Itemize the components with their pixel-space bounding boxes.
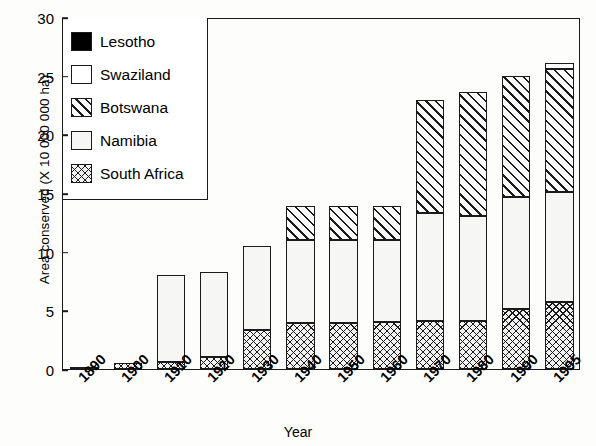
y-axis-tick-mark (62, 252, 68, 254)
bar-1995[interactable] (545, 63, 573, 369)
y-axis-tick-label: 0 (46, 362, 54, 379)
y-axis-tick-labels: 051015202530 (0, 0, 62, 446)
legend-label: Lesotho (100, 34, 155, 50)
legend-swatch-botswana (71, 98, 92, 117)
bar-segment-namibia[interactable] (286, 240, 314, 323)
bar-segment-botswana[interactable] (416, 100, 444, 213)
bar-segment-namibia[interactable] (243, 246, 271, 330)
y-axis-tick-label: 15 (37, 186, 54, 203)
x-axis-title: Year (0, 424, 596, 440)
bar-segment-botswana[interactable] (329, 206, 357, 240)
y-axis-tick-mark (62, 311, 68, 313)
bar-segment-namibia[interactable] (502, 197, 530, 310)
y-axis-tick-label: 20 (37, 127, 54, 144)
chart-figure: Area conserved (X 10 000 000 ha) 0510152… (0, 0, 596, 446)
bar-1940[interactable] (286, 206, 314, 369)
bar-segment-namibia[interactable] (329, 240, 357, 323)
y-axis-tick-mark (62, 135, 68, 137)
bar-segment-namibia[interactable] (373, 240, 401, 322)
legend-swatch-lesotho (71, 32, 92, 51)
bar-1950[interactable] (329, 206, 357, 369)
bar-segment-namibia[interactable] (545, 192, 573, 302)
legend-swatch-swaziland (71, 65, 92, 84)
chart-legend: LesothoSwazilandBotswanaNamibiaSouth Afr… (63, 18, 208, 200)
bar-segment-botswana[interactable] (286, 206, 314, 240)
y-axis-tick-mark (62, 369, 68, 371)
y-axis-tick-label: 30 (37, 10, 54, 27)
bar-segment-botswana[interactable] (545, 69, 573, 192)
legend-label: South Africa (100, 166, 184, 182)
bar-segment-botswana[interactable] (459, 92, 487, 216)
bar-segment-namibia[interactable] (200, 272, 228, 358)
y-axis-tick-mark (62, 193, 68, 195)
y-axis-tick-mark (62, 76, 68, 78)
legend-label: Botswana (100, 100, 168, 116)
bar-segment-namibia[interactable] (416, 213, 444, 321)
legend-swatch-southafrica (71, 164, 92, 183)
bar-1970[interactable] (416, 100, 444, 369)
bar-1930[interactable] (243, 246, 271, 369)
bar-1980[interactable] (459, 92, 487, 369)
legend-item-namibia[interactable]: Namibia (71, 124, 207, 157)
legend-label: Swaziland (100, 67, 171, 83)
legend-item-botswana[interactable]: Botswana (71, 91, 207, 124)
legend-label: Namibia (100, 133, 157, 149)
y-axis-tick-label: 25 (37, 68, 54, 85)
legend-item-lesotho[interactable]: Lesotho (71, 25, 207, 58)
y-axis-tick-mark (62, 17, 68, 19)
legend-swatch-namibia (71, 131, 92, 150)
legend-item-swaziland[interactable]: Swaziland (71, 58, 207, 91)
bar-1960[interactable] (373, 206, 401, 369)
y-axis-tick-label: 5 (46, 303, 54, 320)
bar-segment-botswana[interactable] (373, 206, 401, 240)
bar-segment-botswana[interactable] (502, 76, 530, 197)
bar-1990[interactable] (502, 76, 530, 369)
bar-segment-namibia[interactable] (459, 216, 487, 320)
legend-item-southafrica[interactable]: South Africa (71, 157, 207, 190)
y-axis-tick-label: 10 (37, 244, 54, 261)
bar-segment-namibia[interactable] (157, 275, 185, 362)
